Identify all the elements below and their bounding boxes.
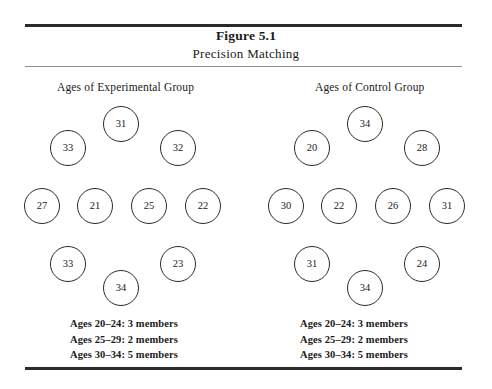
summary-experimental: Ages 20–24: 3 members Ages 25–29: 2 memb… [70, 316, 178, 363]
age-circle-control: 34 [347, 270, 383, 306]
header-divider-rule [25, 66, 462, 67]
age-circle-control: 28 [404, 130, 440, 166]
group-heading-experimental: Ages of Experimental Group [57, 81, 194, 93]
age-circle-control: 34 [347, 106, 383, 142]
age-circle-experimental: 33 [50, 246, 86, 282]
summary-line: Ages 30–34: 5 members [70, 347, 178, 363]
age-circle-experimental: 34 [103, 270, 139, 306]
figure-subtitle: Precision Matching [0, 46, 492, 62]
figure-container: Figure 5.1 Precision Matching Ages of Ex… [0, 0, 492, 389]
summary-line: Ages 30–34: 5 members [300, 347, 408, 363]
bottom-rule [25, 367, 462, 370]
summary-line: Ages 20–24: 3 members [300, 316, 408, 332]
age-circle-experimental: 31 [103, 106, 139, 142]
age-circle-control: 26 [375, 188, 411, 224]
age-circle-control: 30 [268, 188, 304, 224]
age-circle-experimental: 22 [185, 188, 221, 224]
top-rule [25, 24, 462, 27]
age-circle-experimental: 25 [131, 188, 167, 224]
age-circle-experimental: 21 [77, 188, 113, 224]
age-circle-experimental: 33 [50, 130, 86, 166]
age-circle-control: 22 [321, 188, 357, 224]
age-circle-experimental: 32 [160, 130, 196, 166]
summary-line: Ages 25–29: 2 members [300, 332, 408, 348]
group-heading-control: Ages of Control Group [315, 81, 425, 93]
figure-title: Figure 5.1 [0, 28, 492, 44]
age-circle-control: 31 [294, 246, 330, 282]
summary-line: Ages 25–29: 2 members [70, 332, 178, 348]
summary-line: Ages 20–24: 3 members [70, 316, 178, 332]
age-circle-control: 24 [404, 246, 440, 282]
age-circle-control: 31 [429, 188, 465, 224]
age-circle-experimental: 23 [160, 246, 196, 282]
summary-control: Ages 20–24: 3 members Ages 25–29: 2 memb… [300, 316, 408, 363]
age-circle-control: 20 [294, 130, 330, 166]
age-circle-experimental: 27 [24, 188, 60, 224]
